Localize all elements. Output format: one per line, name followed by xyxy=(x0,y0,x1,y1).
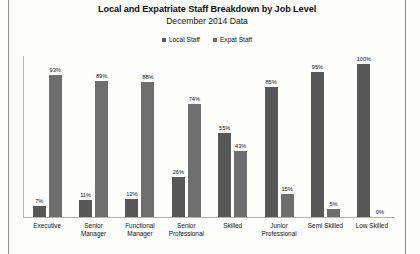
bar-value-label: 0% xyxy=(376,209,384,216)
bar-value-label: 43% xyxy=(235,143,246,150)
legend-item-local-staff[interactable]: Local Staff xyxy=(162,36,200,43)
bar-column[interactable]: 15% xyxy=(281,56,294,217)
bar-group: 12%88% xyxy=(117,56,163,217)
category-label: Skilled xyxy=(210,222,256,239)
bar-value-label: 93% xyxy=(50,67,61,74)
chart-legend: Local StaffExpat Staff xyxy=(9,36,405,43)
bar[interactable] xyxy=(33,206,46,217)
bar-column[interactable]: 100% xyxy=(357,56,370,217)
chart-title: Local and Expatriate Staff Breakdown by … xyxy=(9,4,405,14)
legend-label: Expat Staff xyxy=(220,36,252,43)
bar-value-label: 7% xyxy=(35,198,43,205)
bar[interactable] xyxy=(49,75,62,217)
category-label: SeniorProfessional xyxy=(163,222,209,239)
bar[interactable] xyxy=(95,81,108,217)
page-border-right xyxy=(405,0,406,254)
bar-value-label: 100% xyxy=(357,56,371,63)
bar-value-label: 89% xyxy=(96,73,107,80)
bar-value-label: 15% xyxy=(281,186,292,193)
x-axis-line xyxy=(23,217,395,218)
legend-item-expat-staff[interactable]: Expat Staff xyxy=(213,36,252,43)
bar[interactable] xyxy=(218,133,231,217)
bar-column[interactable]: 55% xyxy=(218,56,231,217)
legend-label: Local Staff xyxy=(169,36,200,43)
bar[interactable] xyxy=(357,64,370,217)
bar[interactable] xyxy=(327,209,340,217)
bar-group: 11%89% xyxy=(70,56,116,217)
bar-column[interactable]: 74% xyxy=(188,56,201,217)
bar-chart: Local and Expatriate Staff Breakdown by … xyxy=(9,0,405,254)
category-label: FunctionalManager xyxy=(117,222,163,239)
x-axis-tick-labels: ExecutiveSeniorManagerFunctionalManagerS… xyxy=(24,222,395,239)
bar-column[interactable]: 26% xyxy=(172,56,185,217)
bar-column[interactable]: 7% xyxy=(33,56,46,217)
bar-column[interactable]: 11% xyxy=(79,56,92,217)
bar[interactable] xyxy=(311,72,324,217)
bar[interactable] xyxy=(172,177,185,217)
bar-column[interactable]: 0% xyxy=(373,56,386,217)
bar-value-label: 5% xyxy=(329,201,337,208)
category-label: Low Skilled xyxy=(349,222,395,239)
legend-swatch-icon xyxy=(213,38,217,42)
bar[interactable] xyxy=(141,82,154,217)
legend-swatch-icon xyxy=(162,38,166,42)
bar-value-label: 95% xyxy=(312,64,323,71)
bar-groups: 7%93%11%89%12%88%26%74%55%43%85%15%95%5%… xyxy=(24,56,395,217)
bar[interactable] xyxy=(265,87,278,217)
bar-column[interactable]: 89% xyxy=(95,56,108,217)
bar-value-label: 55% xyxy=(219,125,230,132)
bar-value-label: 88% xyxy=(142,74,153,81)
bar-group: 85%15% xyxy=(256,56,302,217)
bar-value-label: 85% xyxy=(265,79,276,86)
category-label: Executive xyxy=(24,222,70,239)
bar[interactable] xyxy=(281,194,294,217)
bar-value-label: 26% xyxy=(173,169,184,176)
bar[interactable] xyxy=(188,104,201,217)
bar-group: 26%74% xyxy=(163,56,209,217)
bar-group: 55%43% xyxy=(210,56,256,217)
scanned-page: Local and Expatriate Staff Breakdown by … xyxy=(0,0,420,254)
bar-column[interactable]: 85% xyxy=(265,56,278,217)
category-label: Semi Skilled xyxy=(302,222,348,239)
bar-group: 95%5% xyxy=(302,56,348,217)
bar[interactable] xyxy=(234,151,247,217)
bar-column[interactable]: 88% xyxy=(141,56,154,217)
bar-value-label: 11% xyxy=(80,192,91,199)
bar-group: 7%93% xyxy=(24,56,70,217)
category-label: JuniorProfessional xyxy=(256,222,302,239)
bar-column[interactable]: 43% xyxy=(234,56,247,217)
bar-column[interactable]: 12% xyxy=(125,56,138,217)
plot-area: 7%93%11%89%12%88%26%74%55%43%85%15%95%5%… xyxy=(23,56,395,218)
bar-group: 100%0% xyxy=(349,56,395,217)
chart-subtitle: December 2014 Data xyxy=(9,16,405,26)
bar-column[interactable]: 5% xyxy=(327,56,340,217)
bar-value-label: 74% xyxy=(189,96,200,103)
bar-column[interactable]: 93% xyxy=(49,56,62,217)
category-label: SeniorManager xyxy=(70,222,116,239)
bar-column[interactable]: 95% xyxy=(311,56,324,217)
bar-value-label: 12% xyxy=(126,191,137,198)
bar[interactable] xyxy=(79,200,92,217)
bar[interactable] xyxy=(125,199,138,217)
